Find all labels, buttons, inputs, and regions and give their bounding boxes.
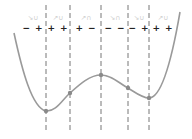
- shape-icon-interval-4: ↘︎∩: [110, 15, 121, 22]
- point-local-min-1: [44, 109, 48, 113]
- shape-icon-interval-3: ↗︎∩: [81, 15, 92, 22]
- point-local-max: [99, 73, 103, 77]
- sign-label-interval-5: − +: [128, 24, 149, 33]
- shape-icon-interval-6: ↗︎∪: [158, 15, 169, 22]
- shape-icon-interval-2: ↗︎∪: [53, 15, 64, 22]
- point-inflection-1: [68, 91, 72, 95]
- shape-icon-interval-5: ↘︎∪: [134, 15, 145, 22]
- sign-label-interval-4: − −: [104, 24, 125, 33]
- point-inflection-2: [126, 86, 130, 90]
- shape-icon-interval-1: ↘︎∪: [28, 15, 39, 22]
- sign-label-interval-1: − +: [22, 24, 43, 33]
- sign-label-interval-2: + +: [47, 24, 68, 33]
- sign-label-interval-6: + +: [152, 24, 173, 33]
- sign-label-interval-3: + −: [75, 24, 96, 33]
- point-local-min-2: [147, 96, 151, 100]
